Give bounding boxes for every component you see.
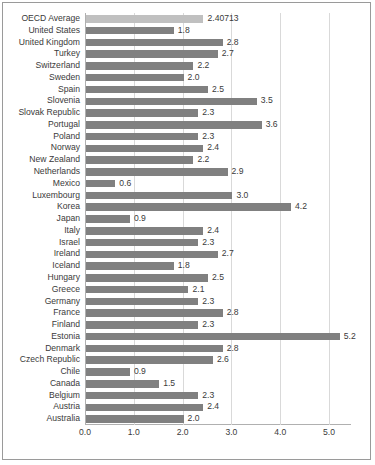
category-label: Slovak Republic — [18, 107, 85, 119]
category-label: Israel — [59, 237, 85, 249]
category-label: Switzerland — [36, 60, 85, 72]
category-label: Czech Republic — [20, 354, 85, 366]
category-label: Finland — [52, 319, 85, 331]
x-axis-tick-label: 5.0 — [323, 427, 335, 437]
x-axis-tick-label: 0.0 — [79, 427, 91, 437]
category-label: Chile — [60, 366, 85, 378]
category-label: Australia — [47, 413, 85, 425]
category-label: Canada — [50, 378, 85, 390]
category-label: Netherlands — [34, 166, 85, 178]
category-label: Belgium — [49, 390, 85, 402]
category-label: Japan — [57, 213, 85, 225]
x-axis-tick-label: 1.0 — [128, 427, 140, 437]
x-axis-tick-labels: 0.01.02.03.04.05.0 — [85, 13, 351, 453]
category-label: Mexico — [53, 178, 85, 190]
category-label: OECD Average — [21, 13, 85, 25]
category-label: New Zealand — [29, 154, 85, 166]
category-label: Iceland — [52, 260, 85, 272]
category-label: Estonia — [51, 331, 85, 343]
category-label: France — [53, 307, 85, 319]
category-label: Austria — [53, 401, 85, 413]
category-label: Norway — [51, 142, 85, 154]
category-label: Ireland — [54, 248, 85, 260]
category-label: United Kingdom — [19, 37, 85, 49]
category-label: Hungary — [48, 272, 85, 284]
category-label: Sweden — [49, 72, 85, 84]
x-axis-tick-label: 3.0 — [225, 427, 237, 437]
category-label: Portugal — [48, 119, 85, 131]
category-label: Poland — [53, 131, 85, 143]
category-label: Italy — [64, 225, 85, 237]
category-label: Korea — [57, 201, 85, 213]
category-label: Luxembourg — [32, 190, 85, 202]
x-axis-tick-label: 4.0 — [274, 427, 286, 437]
category-label: United States — [28, 25, 85, 37]
category-label: Germany — [45, 296, 85, 308]
category-label: Greece — [52, 284, 85, 296]
category-label: Denmark — [45, 343, 85, 355]
category-label: Spain — [58, 84, 85, 96]
category-label: Slovenia — [47, 95, 85, 107]
x-axis-tick-label: 2.0 — [177, 427, 189, 437]
category-label: Turkey — [54, 48, 85, 60]
chart-frame: OECD Average2.40713United States1.8Unite… — [2, 2, 371, 460]
